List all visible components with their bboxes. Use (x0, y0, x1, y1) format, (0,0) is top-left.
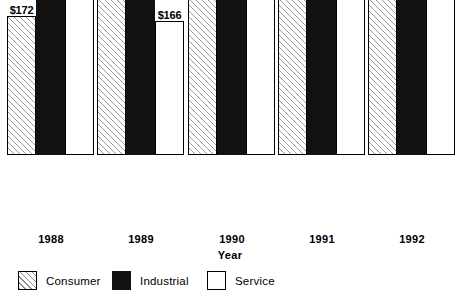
legend-swatch-service-icon (207, 271, 226, 290)
bar-consumer-1989[interactable]: $196 (97, 0, 126, 155)
bar-chart: $172 $218 $201 $196 $225 $166 (0, 0, 462, 301)
bar-value-label: $172 (10, 4, 34, 16)
legend-swatch-consumer-icon (18, 271, 37, 290)
legend-item-service[interactable]: Service (207, 271, 275, 290)
plot-area: $172 $218 $201 $196 $225 $166 (0, 0, 462, 232)
x-axis-title-text: Year (218, 249, 242, 261)
bar-value-label: $166 (158, 9, 182, 21)
bar-industrial-1988[interactable]: $218 (36, 0, 65, 155)
bar-service-1990[interactable]: $223 (246, 0, 275, 155)
bar-group-bars: $172 $218 $201 (7, 0, 94, 155)
bar-group-bars: $210 $199 $194 (278, 0, 365, 155)
x-tick-label-1989: 1989 (97, 233, 185, 246)
bar-consumer-1990[interactable]: $210 (188, 0, 217, 155)
x-tick-label-1990: 1990 (188, 233, 276, 246)
bar-group-bars: $196 $225 $166 (97, 0, 184, 155)
bar-consumer-1991[interactable]: $210 (278, 0, 307, 155)
bar-industrial-1991[interactable]: $199 (307, 0, 336, 155)
bar-service-1988[interactable]: $201 (65, 0, 94, 155)
bar-service-1989[interactable]: $166 (155, 21, 184, 155)
chart-legend: Consumer Industrial Service (0, 271, 462, 295)
bar-industrial-1989[interactable]: $225 (126, 0, 155, 155)
bar-consumer-1992[interactable]: $211 (368, 0, 397, 155)
bar-consumer-1988[interactable]: $172 (7, 16, 36, 155)
bar-service-1992[interactable]: $214 (426, 0, 455, 155)
legend-item-consumer[interactable]: Consumer (18, 271, 101, 290)
x-tick-label-1991: 1991 (278, 233, 366, 246)
bar-group-bars: $210 $251 $223 (188, 0, 275, 155)
bar-service-1991[interactable]: $194 (336, 0, 365, 155)
legend-label-consumer: Consumer (46, 274, 101, 288)
x-tick-label-1988: 1988 (7, 233, 95, 246)
bar-industrial-1992[interactable]: $227 (397, 0, 426, 155)
legend-label-service: Service (235, 274, 275, 288)
x-axis-title: Year (0, 249, 462, 262)
legend-swatch-industrial-icon (112, 271, 131, 290)
legend-label-industrial: Industrial (140, 274, 189, 288)
bar-group-bars: $211 $227 $214 (368, 0, 455, 155)
x-tick-label-1992: 1992 (368, 233, 456, 246)
bar-industrial-1990[interactable]: $251 (217, 0, 246, 155)
legend-item-industrial[interactable]: Industrial (112, 271, 189, 290)
